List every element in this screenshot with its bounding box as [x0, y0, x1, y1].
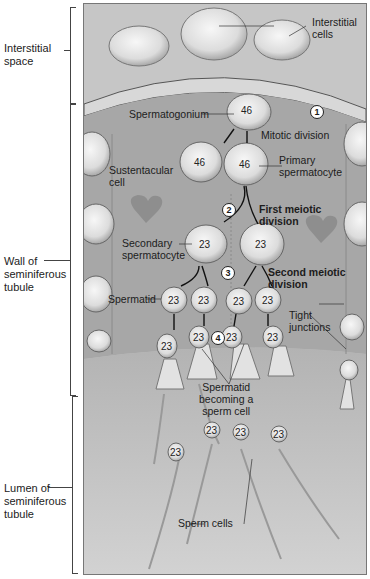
step-4-marker: 4 [211, 331, 225, 345]
developing-count: 23 [193, 332, 205, 343]
primary-right-count: 46 [239, 159, 251, 170]
sperm-count: 23 [273, 429, 285, 440]
tight-junctions-label: Tight junctions [289, 309, 330, 333]
primary-left-count: 46 [194, 157, 206, 168]
spermatid-becoming-sperm-label: Spermatid becoming a sperm cell [199, 381, 253, 417]
secondary-left-count: 23 [199, 239, 211, 250]
spermatid-count: 23 [198, 295, 210, 306]
wall-bracket [70, 104, 76, 396]
sperm-count: 23 [206, 425, 218, 436]
developing-count: 23 [226, 332, 238, 343]
spermatogonium-label: Spermatogonium [129, 108, 209, 120]
spermatid-label: Spermatid [108, 293, 156, 305]
interstitial-cells-label: Interstitial cells [312, 16, 357, 40]
wall-label: Wall of seminiferous tubule [4, 255, 66, 294]
first-meiotic-division-label: First meiotic division [259, 203, 321, 227]
primary-spermatocyte-label: Primary spermatocyte [279, 154, 342, 178]
interstitial-space-bracket [70, 7, 76, 104]
sperm-count: 23 [235, 427, 247, 438]
spermatid-count: 23 [262, 295, 274, 306]
interstitial-space-leader [64, 50, 70, 51]
spermatid-count: 23 [168, 295, 180, 306]
secondary-spermatocyte-label: Secondary spermatocyte [122, 237, 185, 261]
interstitial-space-label: Interstitial space [4, 42, 51, 68]
secondary-right-count: 23 [255, 239, 267, 250]
mitotic-division-label: Mitotic division [261, 129, 329, 141]
sustentacular-cell-label: Sustentacular cell [109, 164, 173, 188]
spermatogonium-count: 46 [241, 105, 253, 116]
step-1-marker: 1 [310, 105, 324, 119]
spermatid-count: 23 [233, 296, 245, 307]
second-meiotic-division-label: Second meiotic division [268, 266, 346, 290]
sperm-count: 23 [170, 447, 182, 458]
lumen-label: Lumen of seminiferous tubule [4, 482, 66, 521]
step-2-marker: 2 [222, 203, 236, 217]
seminiferous-tubule-illustration: 46 46 46 23 23 23 23 23 23 23 23 23 [83, 3, 367, 575]
developing-count: 23 [161, 341, 173, 352]
lumen-bracket [72, 396, 78, 574]
developing-count: 23 [267, 332, 279, 343]
sperm-cells-label: Sperm cells [178, 517, 233, 529]
step-3-marker: 3 [221, 266, 235, 280]
